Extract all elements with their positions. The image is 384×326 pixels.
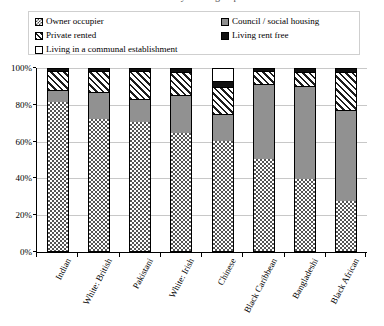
bar-segment: [48, 71, 68, 90]
legend-column-right: Council / social housing Living rent fre…: [221, 15, 319, 43]
bar-segment: [213, 68, 233, 81]
bar-slot: [285, 68, 326, 252]
bar-slot: [202, 68, 243, 252]
legend-label-owner-occupier: Owner occupier: [46, 17, 104, 26]
bar-segment: [48, 90, 68, 102]
y-axis-tick-0: 0%: [20, 248, 32, 257]
bar-segment: [213, 114, 233, 141]
bar-slot: [37, 68, 78, 252]
x-axis-label: White: Irish: [168, 257, 196, 299]
legend-item-owner-occupier: Owner occupier: [35, 15, 177, 28]
bar-slot: [78, 68, 119, 252]
bar-segment: [295, 179, 315, 251]
living-rent-free-swatch-icon: [221, 32, 229, 40]
bar-segment: [89, 92, 109, 119]
x-axis-label: Black African: [330, 257, 362, 306]
bar-segment: [130, 71, 150, 100]
x-axis-label: White: British: [82, 257, 114, 306]
stacked-bar[interactable]: [47, 68, 69, 252]
bar-segment: [89, 71, 109, 92]
legend-column-left: Owner occupier Private rented Living in …: [35, 15, 177, 57]
x-axis-category-labels: IndianWhite: BritishPakistaniWhite: Iris…: [36, 257, 366, 326]
bar-segment: [130, 99, 150, 122]
legend-item-private-rented: Private rented: [35, 29, 177, 42]
bar-segment: [48, 102, 68, 251]
bar-segment: [130, 122, 150, 251]
bar-segment: [254, 71, 274, 85]
bar-segment: [89, 119, 109, 251]
legend-label-communal-establishment: Living in a communal establishment: [46, 45, 177, 54]
legend-item-communal-establishment: Living in a communal establishment: [35, 43, 177, 56]
stacked-bar[interactable]: [212, 68, 234, 252]
bar-segment: [295, 72, 315, 86]
stacked-bar[interactable]: [129, 68, 151, 252]
legend-item-council-social-housing: Council / social housing: [221, 15, 319, 28]
clipped-chart-title: Tenure by ethnic group: [0, 0, 384, 9]
x-axis-label: Pakistani: [132, 257, 155, 290]
chart-legend: Owner occupier Private rented Living in …: [28, 11, 360, 55]
legend-label-private-rented: Private rented: [46, 31, 96, 40]
bar-slot: [326, 68, 367, 252]
bar-segment: [254, 159, 274, 251]
chart-plot-area: 100%80%60%40%20%0% IndianWhite: BritishP…: [0, 58, 384, 326]
chart-title-text: Tenure by ethnic group: [0, 0, 384, 2]
bar-segment: [336, 110, 356, 201]
x-axis-label: Black Caribbean: [243, 257, 279, 314]
bar-segment: [171, 133, 191, 251]
x-axis-label: Bangladeshi: [291, 257, 320, 301]
x-axis-label: Indian: [54, 257, 73, 282]
bar-segment: [254, 84, 274, 159]
council-social-housing-swatch-icon: [221, 18, 229, 26]
stacked-bar[interactable]: [88, 68, 110, 252]
bar-slot: [161, 68, 202, 252]
legend-item-living-rent-free: Living rent free: [221, 29, 319, 42]
x-axis-label: Chinese: [216, 257, 238, 287]
y-axis-tick-labels: 100%80%60%40%20%0%: [0, 58, 36, 248]
stacked-bar[interactable]: [253, 68, 275, 252]
stacked-bar[interactable]: [294, 68, 316, 252]
y-axis-tick-40: 40%: [16, 174, 33, 183]
bar-segment: [336, 201, 356, 251]
legend-label-living-rent-free: Living rent free: [232, 31, 288, 40]
bar-segment: [171, 72, 191, 95]
communal-establishment-swatch-icon: [35, 46, 43, 54]
owner-occupier-swatch-icon: [35, 18, 43, 26]
plot-canvas: [36, 68, 367, 253]
bar-segment: [213, 87, 233, 114]
bar-segment: [213, 141, 233, 251]
bar-series-container: [37, 68, 367, 252]
stacked-bar[interactable]: [170, 68, 192, 252]
bar-slot: [243, 68, 284, 252]
y-axis-tick-60: 60%: [16, 138, 33, 147]
bar-segment: [171, 95, 191, 133]
y-axis-tick-100: 100%: [11, 64, 32, 73]
legend-label-council-social-housing: Council / social housing: [232, 17, 319, 26]
bar-segment: [336, 72, 356, 110]
private-rented-swatch-icon: [35, 32, 43, 40]
stacked-bar[interactable]: [335, 68, 357, 252]
y-axis-tick-20: 20%: [16, 211, 33, 220]
bar-slot: [120, 68, 161, 252]
bar-segment: [295, 86, 315, 179]
y-axis-tick-80: 80%: [16, 101, 33, 110]
